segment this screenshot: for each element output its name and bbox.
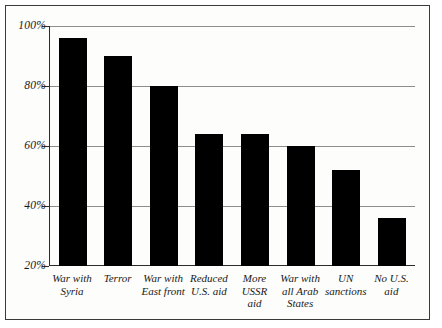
ytick-label-100: 100% — [2, 20, 46, 32]
bar-slot-0 — [50, 26, 96, 266]
xlabel-line: States — [287, 297, 313, 309]
xlabel-line: No U.S. — [374, 272, 409, 284]
bar-slot-3 — [187, 26, 233, 266]
xlabel-line: aid — [247, 297, 261, 309]
bar-more-ussr-aid[interactable] — [241, 134, 269, 266]
xlabel-line: War with — [143, 272, 183, 284]
xtick-label-no-us-aid: No U.S.aid — [363, 272, 419, 297]
xlabel-line: War with — [52, 272, 92, 284]
xlabel-line: USSR — [242, 285, 268, 297]
bar-series — [50, 26, 415, 266]
bar-reduced-us-aid[interactable] — [195, 134, 223, 266]
xlabel-line: War with — [280, 272, 320, 284]
xlabel-line: Syria — [60, 285, 83, 297]
bar-slot-7 — [369, 26, 415, 266]
bar-terror[interactable] — [104, 56, 132, 266]
bar-war-with-east-front[interactable] — [150, 86, 178, 266]
ytick-label-20: 20% — [2, 260, 46, 272]
xlabel-line: sanctions — [325, 285, 367, 297]
bar-slot-2 — [141, 26, 187, 266]
xlabel-line: U.S. aid — [191, 285, 227, 297]
xlabel-line: all Arab — [282, 285, 318, 297]
bar-war-with-all-arab-states[interactable] — [287, 146, 315, 266]
bar-slot-6 — [324, 26, 370, 266]
xlabel-line: Reduced — [190, 272, 228, 284]
xlabel-line: East front — [142, 285, 185, 297]
bar-slot-4 — [233, 26, 279, 266]
bar-no-us-aid[interactable] — [378, 218, 406, 266]
ytick-label-80: 80% — [2, 80, 46, 92]
ytick-label-60: 60% — [2, 140, 46, 152]
chart-figure: 100% 80% 60% 40% 20% War withSyria Terro… — [0, 0, 442, 328]
xlabel-line: Terror — [104, 272, 132, 284]
xlabel-line: UN — [338, 272, 353, 284]
xlabel-line: aid — [384, 285, 398, 297]
bar-slot-1 — [96, 26, 142, 266]
xlabel-line: More — [243, 272, 266, 284]
bar-un-sanctions[interactable] — [332, 170, 360, 266]
bar-slot-5 — [278, 26, 324, 266]
bar-war-with-syria[interactable] — [59, 38, 87, 266]
ytick-label-40: 40% — [2, 200, 46, 212]
